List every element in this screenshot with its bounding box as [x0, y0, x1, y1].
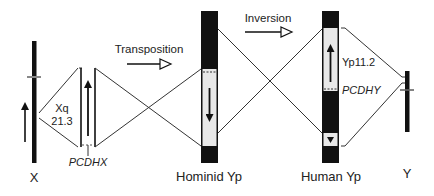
transposition-label: Transposition	[115, 43, 184, 55]
y-chromosome	[400, 71, 414, 132]
hollow-arrow-icon	[281, 27, 292, 37]
yp112-label: Yp11.2	[342, 56, 375, 68]
inversion-step	[245, 27, 292, 37]
evolution-diagram: Transposition Inversion Xq 21.3 PCDHX Yp…	[0, 0, 434, 196]
hominid-yp-chromosome	[201, 11, 218, 163]
hollow-arrow-icon	[160, 59, 171, 69]
x-label: X	[30, 170, 39, 185]
human-yp-chromosome	[322, 11, 339, 163]
transposition-step	[127, 59, 171, 69]
hominid-yp-label: Hominid Yp	[176, 169, 242, 184]
y-label: Y	[403, 166, 412, 181]
human-yp-label: Human Yp	[301, 169, 361, 184]
band-xq-label: Xq	[55, 102, 68, 114]
xq213-segment	[79, 68, 95, 156]
inversion-label: Inversion	[245, 12, 292, 24]
band-213-label: 21.3	[51, 115, 72, 127]
pcdhy-label: PCDHY	[342, 84, 381, 96]
pcdhx-label: PCDHX	[69, 156, 108, 168]
x-chromosome	[25, 41, 78, 163]
